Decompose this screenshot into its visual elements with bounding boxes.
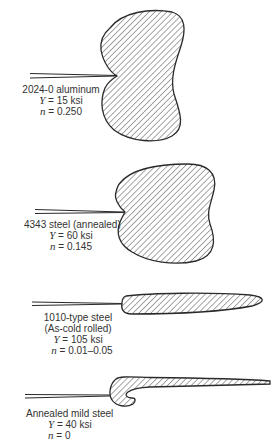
- wire-mild-steel: [25, 395, 110, 399]
- hardening-exponent: n = 0: [26, 430, 114, 441]
- material-name: Annealed mild steel: [26, 408, 114, 419]
- specimen-aluminum: [30, 11, 184, 141]
- wire-4343-steel: [35, 210, 124, 214]
- deformed-shape-1010-steel: [122, 293, 263, 314]
- wire-1010-steel: [32, 302, 122, 306]
- hardening-exponent: n = 0.250: [22, 106, 100, 117]
- label-mild-steel: Annealed mild steel Y = 40 ksi n = 0: [26, 408, 114, 441]
- material-name: 4343 steel (annealed): [24, 219, 118, 230]
- deformed-shape-4343-steel: [115, 164, 214, 263]
- material-name: 2024-0 aluminum: [22, 84, 100, 95]
- label-aluminum: 2024-0 aluminum Y = 15 ksi n = 0.250: [22, 84, 100, 117]
- material-name: 1010-type steel: [42, 312, 114, 323]
- yield-strength: Y = 40 ksi: [26, 419, 114, 430]
- hardening-exponent: n = 0.01–0.05: [42, 345, 114, 356]
- wire-aluminum: [30, 74, 117, 79]
- yield-strength: Y = 60 ksi: [24, 230, 118, 241]
- specimen-1010-steel: [32, 293, 262, 314]
- label-4343-steel: 4343 steel (annealed) Y = 60 ksi n = 0.1…: [24, 219, 118, 252]
- hardening-exponent: n = 0.145: [24, 241, 118, 252]
- deformed-shape-mild-steel: [110, 377, 270, 406]
- yield-strength: Y = 15 ksi: [22, 95, 100, 106]
- label-1010-steel: 1010-type steel (As-cold rolled) Y = 105…: [42, 312, 114, 356]
- specimen-mild-steel: [25, 377, 270, 406]
